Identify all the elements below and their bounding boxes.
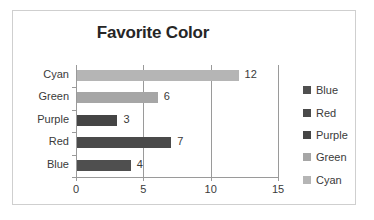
plot-area: Cyan12Green6Purple3Red7Blue4 051015 [76, 65, 278, 177]
bar-row: Purple3 [76, 110, 278, 132]
x-tick-10 [211, 177, 212, 181]
category-label: Cyan [17, 68, 69, 80]
x-tick-15 [278, 177, 279, 181]
legend-label: Blue [316, 84, 338, 96]
bar-row: Blue4 [76, 155, 278, 177]
chart-legend: BlueRedPurpleGreenCyan [303, 79, 365, 191]
gridline-x-15 [278, 65, 279, 177]
bar-value-label: 6 [164, 90, 170, 102]
legend-swatch-icon [303, 176, 311, 184]
category-label: Blue [17, 158, 69, 170]
bar[interactable] [77, 70, 239, 81]
legend-swatch-icon [303, 109, 311, 117]
x-axis-line [76, 177, 278, 178]
legend-label: Purple [316, 129, 348, 141]
x-tick-label: 5 [140, 183, 146, 195]
chart-frame: Favorite Color Cyan12Green6Purple3Red7Bl… [12, 10, 356, 205]
legend-item-green[interactable]: Green [303, 146, 365, 168]
x-tick-label: 15 [272, 183, 284, 195]
legend-swatch-icon [303, 131, 311, 139]
bar-value-label: 12 [245, 68, 257, 80]
bar-value-label: 3 [123, 113, 129, 125]
legend-item-red[interactable]: Red [303, 101, 365, 123]
bar-row: Green6 [76, 87, 278, 109]
x-tick-label: 0 [73, 183, 79, 195]
legend-label: Cyan [316, 174, 342, 186]
bar[interactable] [77, 160, 131, 171]
bar[interactable] [77, 92, 158, 103]
bar[interactable] [77, 115, 117, 126]
legend-label: Red [316, 107, 336, 119]
category-label: Purple [17, 113, 69, 125]
bar-row: Cyan12 [76, 65, 278, 87]
legend-item-blue[interactable]: Blue [303, 79, 365, 101]
x-tick-5 [143, 177, 144, 181]
legend-swatch-icon [303, 86, 311, 94]
legend-item-purple[interactable]: Purple [303, 124, 365, 146]
bar-value-label: 4 [137, 158, 143, 170]
bar-value-label: 7 [177, 135, 183, 147]
category-label: Red [17, 135, 69, 147]
bar[interactable] [77, 137, 171, 148]
x-tick-0 [76, 177, 77, 181]
bar-row: Red7 [76, 132, 278, 154]
legend-swatch-icon [303, 153, 311, 161]
legend-item-cyan[interactable]: Cyan [303, 169, 365, 191]
legend-label: Green [316, 151, 347, 163]
chart-title: Favorite Color [13, 23, 293, 43]
x-tick-label: 10 [205, 183, 217, 195]
category-label: Green [17, 90, 69, 102]
